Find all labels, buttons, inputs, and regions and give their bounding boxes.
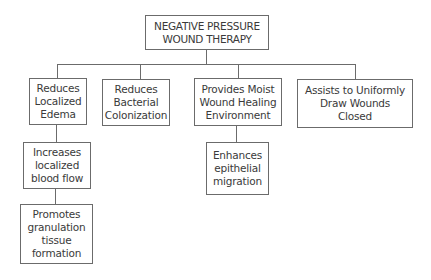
node-provides-moist-environment: Provides Moist Wound Healing Environment [194, 78, 282, 126]
node-promotes-granulation: Promotes granulation tissue formation [20, 204, 93, 264]
node-label: Reduces Localized Edema [35, 82, 82, 121]
connector-root-down [206, 49, 207, 65]
node-label: NEGATIVE PRESSURE WOUND THERAPY [154, 20, 260, 46]
node-increases-blood-flow: Increases localized blood flow [23, 142, 91, 189]
node-reduces-localized-edema: Reduces Localized Edema [29, 78, 87, 125]
connector-bloodflow-to-granulation [55, 188, 56, 204]
connector-to-bacterial [140, 64, 141, 79]
node-assists-draw-wounds-closed: Assists to Uniformly Draw Wounds Closed [297, 79, 413, 128]
node-label: Provides Moist Wound Healing Environment [200, 83, 277, 122]
node-reduces-bacterial-colonization: Reduces Bacterial Colonization [102, 79, 170, 126]
connector-horizontal-bus [57, 64, 356, 65]
connector-to-edema [57, 64, 58, 78]
node-enhances-epithelial-migration: Enhances epithelial migration [206, 142, 269, 195]
node-label: Assists to Uniformly Draw Wounds Closed [305, 84, 405, 123]
connector-to-draw [355, 64, 356, 79]
node-label: Enhances epithelial migration [213, 149, 262, 188]
connector-to-moist [238, 64, 239, 78]
node-label: Increases localized blood flow [31, 146, 83, 185]
node-root-negative-pressure-wound-therapy: NEGATIVE PRESSURE WOUND THERAPY [145, 15, 269, 50]
connector-moist-to-epithelial [236, 125, 237, 142]
node-label: Reduces Bacterial Colonization [105, 83, 167, 122]
node-label: Promotes granulation tissue formation [28, 208, 86, 260]
connector-edema-to-bloodflow [56, 124, 57, 142]
